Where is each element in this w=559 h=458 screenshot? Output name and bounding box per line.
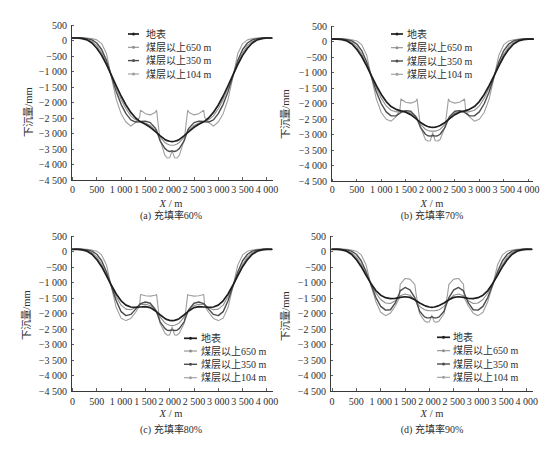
legend-label: 煤层以上104 m	[201, 371, 267, 383]
x-tick-label: 2 000	[158, 184, 181, 195]
legend-item-650m: 煤层以上650 m	[184, 345, 267, 357]
series-line-650m	[73, 249, 272, 325]
y-axis-title: 下沉量/mm	[279, 291, 291, 340]
y-tick-label: −2 500	[298, 324, 326, 335]
x-tick-label: 1 000	[370, 184, 393, 195]
y-tick-label: −4 000	[298, 370, 326, 381]
legend-marker-icon	[132, 59, 135, 62]
legend-marker-icon	[396, 73, 399, 76]
legend-item-650m: 煤层以上650 m	[128, 41, 212, 53]
y-axis-title: 下沉量/mm	[22, 87, 34, 136]
x-tick-label: 3 000	[207, 184, 230, 195]
plot-area	[73, 249, 272, 335]
x-tick-label: 2 000	[418, 396, 441, 407]
legend-label: 煤层以上350 m	[407, 55, 473, 67]
y-tick-label: 0	[62, 35, 67, 46]
legend-marker-icon	[442, 336, 445, 339]
y-tick-label: −4 000	[39, 370, 67, 381]
x-axis-unit: / m	[427, 408, 443, 419]
panel-d: 5000−500−1 000−1 500−2 000−2 500−3 000−3…	[279, 231, 539, 436]
x-axis-title: X / m	[420, 408, 444, 419]
y-tick-label: −2 000	[299, 98, 327, 109]
y-tick-label: −1 000	[39, 277, 67, 288]
x-tick-label: 0	[70, 184, 75, 195]
panel-caption: (d) 充填率90%	[401, 423, 464, 436]
legend-label: 煤层以上650 m	[201, 345, 267, 357]
legend-label: 地表	[201, 332, 221, 344]
y-tick-label: −500	[46, 262, 67, 273]
y-tick-label: −500	[305, 262, 326, 273]
x-tick-label: 2 500	[443, 396, 466, 407]
y-tick-label: −500	[46, 51, 67, 62]
y-tick-label: −3 500	[39, 144, 67, 155]
y-tick-label: −4 000	[39, 159, 67, 170]
x-tick-label: 3 500	[493, 184, 516, 195]
y-tick-label: −4 000	[299, 160, 327, 171]
y-tick-label: 500	[311, 231, 326, 242]
legend-item-surface: 地表	[184, 332, 221, 344]
x-tick-label: 2 500	[183, 184, 206, 195]
x-axis-title: X / m	[159, 408, 183, 419]
x-tick-label: 1 000	[110, 396, 133, 407]
y-tick-label: −3 500	[298, 355, 326, 366]
y-axis-title: 下沉量/mm	[279, 89, 291, 138]
legend: 地表煤层以上650 m煤层以上350 m煤层以上104 m	[391, 28, 473, 80]
legend-label: 地表	[407, 28, 427, 40]
legend-item-650m: 煤层以上650 m	[437, 344, 519, 356]
legend-marker-icon	[132, 33, 135, 36]
y-tick-label: −4 500	[298, 386, 326, 397]
y-tick-label: −4 500	[39, 386, 67, 397]
legend-marker-icon	[396, 33, 399, 36]
legend-marker-icon	[132, 73, 135, 76]
legend: 地表煤层以上650 m煤层以上350 m煤层以上104 m	[128, 28, 212, 80]
y-tick-label: −2 500	[299, 114, 327, 125]
legend-marker-icon	[442, 376, 445, 379]
y-tick-label: −2 000	[39, 308, 67, 319]
x-tick-label: 3 000	[207, 396, 230, 407]
x-tick-label: 500	[89, 184, 104, 195]
y-tick-label: −3 000	[39, 339, 67, 350]
legend-item-650m: 煤层以上650 m	[391, 41, 473, 53]
legend-label: 煤层以上350 m	[201, 358, 267, 370]
y-tick-label: 500	[312, 21, 327, 32]
legend-item-104m: 煤层以上104 m	[128, 68, 212, 80]
y-tick-label: −3 000	[298, 339, 326, 350]
legend: 地表煤层以上650 m煤层以上350 m煤层以上104 m	[184, 332, 267, 383]
panel-caption: (c) 充填率80%	[140, 423, 202, 436]
panel-c: 5000−500−1 000−1 500−2 000−2 500−3 000−3…	[20, 231, 279, 436]
x-tick-label: 4 000	[256, 184, 279, 195]
legend-label: 煤层以上650 m	[453, 344, 519, 356]
legend-marker-icon	[132, 46, 135, 49]
y-tick-label: −1 500	[39, 82, 67, 93]
series-line-104m	[332, 39, 533, 141]
legend-label: 地表	[146, 28, 166, 40]
legend-item-104m: 煤层以上104 m	[184, 371, 267, 383]
legend-marker-icon	[189, 363, 192, 366]
legend-item-350m: 煤层以上350 m	[128, 54, 212, 66]
y-tick-label: −1 500	[299, 83, 327, 94]
x-tick-label: 2 500	[444, 184, 467, 195]
series-line-surface	[73, 249, 272, 320]
legend-label: 煤层以上350 m	[146, 54, 212, 66]
plot-area	[332, 39, 533, 141]
x-axis-title: X / m	[159, 198, 183, 209]
panel-b: 5000−500−1 000−1 500−2 000−2 500−3 000−3…	[279, 21, 540, 223]
x-tick-label: 2 000	[419, 184, 442, 195]
legend-marker-icon	[396, 46, 399, 49]
x-tick-label: 500	[349, 396, 364, 407]
x-axis-unit: / m	[166, 198, 182, 209]
x-tick-label: 1 500	[134, 396, 157, 407]
y-tick-label: −500	[306, 52, 327, 63]
y-tick-label: −2 000	[39, 97, 67, 108]
y-axis-title: 下沉量/mm	[20, 290, 32, 339]
legend-marker-icon	[442, 349, 445, 352]
y-tick-label: −2 000	[298, 308, 326, 319]
x-tick-label: 3 500	[491, 396, 514, 407]
y-tick-label: 500	[52, 231, 67, 242]
x-tick-label: 3 500	[231, 396, 254, 407]
x-tick-label: 500	[349, 184, 364, 195]
x-tick-label: 0	[70, 396, 75, 407]
x-tick-label: 1 500	[395, 184, 418, 195]
y-tick-label: −1 000	[299, 67, 327, 78]
legend-label: 煤层以上650 m	[407, 41, 473, 53]
